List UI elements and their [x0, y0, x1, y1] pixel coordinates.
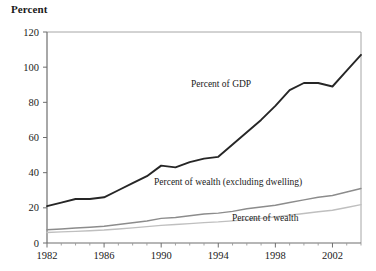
- chart-container: Percent 020406080100120 1982198619901994…: [0, 0, 376, 271]
- series-line: [47, 205, 361, 233]
- axis-lines: [47, 32, 361, 243]
- y-tick-label: 80: [29, 97, 40, 108]
- y-tick-label: 20: [29, 202, 40, 213]
- y-axis-tick-labels: 020406080100120: [23, 27, 39, 249]
- x-axis-tick-labels: 198219861990199419982002: [37, 250, 343, 261]
- plot-frame: [47, 32, 361, 243]
- x-tick-label: 1990: [151, 250, 172, 261]
- series-label: Percent of wealth (excluding dwelling): [154, 177, 302, 188]
- x-tick-label: 1986: [94, 250, 115, 261]
- y-tick-label: 100: [23, 62, 39, 73]
- x-tick-label: 1994: [208, 250, 230, 261]
- series-line: [47, 188, 361, 229]
- y-tick-label: 120: [23, 27, 39, 38]
- series-label: Percent of wealth: [232, 213, 299, 223]
- y-tick-label: 40: [29, 167, 40, 178]
- x-axis-tick-marks: [47, 243, 361, 248]
- y-tick-label: 60: [29, 132, 40, 143]
- y-tick-label: 0: [34, 238, 39, 249]
- x-tick-label: 1998: [265, 250, 286, 261]
- x-tick-label: 1982: [37, 250, 58, 261]
- x-tick-label: 2002: [322, 250, 343, 261]
- line-chart-plot: 020406080100120 198219861990199419982002…: [0, 0, 376, 271]
- series-label: Percent of GDP: [191, 79, 251, 89]
